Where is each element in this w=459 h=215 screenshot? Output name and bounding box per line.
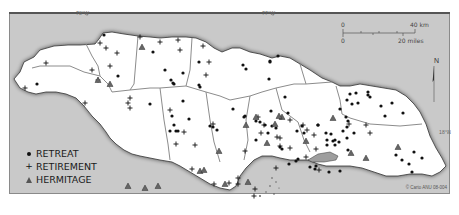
retreat-marker	[324, 131, 327, 134]
retirement-marker	[274, 166, 279, 171]
retreat-marker	[394, 153, 397, 156]
retreat-marker	[163, 68, 166, 71]
map-credit: © Carto ANU 08-004	[406, 185, 447, 190]
scale-km-start: 0	[341, 21, 345, 28]
scale-bar	[343, 29, 415, 37]
plus-icon: +	[25, 162, 33, 171]
retreat-marker	[338, 107, 341, 110]
scale-km-end: 40 km	[410, 21, 429, 28]
retreat-marker	[295, 129, 298, 132]
retreat-marker	[176, 129, 179, 132]
retreat-marker	[242, 115, 245, 118]
retreat-marker	[348, 92, 351, 95]
hermitage-marker	[125, 183, 131, 189]
retreat-marker	[35, 82, 38, 85]
retreat-marker	[241, 63, 244, 66]
legend-label-retirement: RETIREMENT	[36, 160, 97, 173]
retreat-marker	[383, 114, 386, 117]
retreat-marker	[325, 143, 328, 146]
retreat-marker	[168, 129, 171, 132]
retreat-marker	[412, 150, 415, 153]
retreat-marker	[390, 101, 393, 104]
hermitage-marker	[245, 179, 251, 185]
retreat-marker	[366, 90, 369, 93]
legend-item-retreat: RETREAT	[22, 147, 97, 160]
retreat-marker	[302, 131, 305, 134]
retirement-marker	[317, 168, 322, 173]
retirement-marker	[252, 194, 257, 199]
retreat-marker	[215, 128, 218, 131]
retreat-marker	[286, 111, 289, 114]
legend-label-retreat: RETREAT	[36, 147, 79, 160]
scale-miles-end: 20 miles	[398, 37, 424, 44]
retreat-marker	[346, 148, 349, 151]
retreat-marker	[400, 158, 403, 161]
retreat-marker	[333, 143, 336, 146]
retreat-marker	[269, 109, 272, 112]
retreat-marker	[325, 138, 328, 141]
retreat-marker	[296, 157, 299, 160]
retreat-marker	[350, 102, 353, 105]
retreat-marker	[337, 140, 340, 143]
retreat-marker	[345, 125, 348, 128]
cays	[259, 177, 280, 197]
retreat-marker	[148, 102, 151, 105]
retreat-marker	[379, 104, 382, 107]
retreat-marker	[329, 132, 332, 135]
retreat-marker	[244, 67, 247, 70]
retreat-marker	[181, 99, 184, 102]
retreat-marker	[231, 107, 234, 110]
scale-miles-start: 0	[341, 37, 345, 44]
dot-icon	[27, 152, 31, 156]
retreat-marker	[283, 95, 286, 98]
retreat-marker	[352, 131, 355, 134]
retreat-marker	[198, 85, 201, 88]
legend-item-retirement: + RETIREMENT	[22, 160, 97, 173]
retreat-marker	[172, 123, 175, 126]
retreat-marker	[410, 170, 413, 173]
retreat-marker	[401, 111, 404, 114]
retreat-marker	[356, 101, 359, 104]
retreat-marker	[258, 120, 261, 123]
retreat-marker	[266, 131, 269, 134]
latitude-label-18n: 18°N	[439, 129, 451, 135]
north-label: N	[434, 57, 439, 64]
retreat-marker	[181, 71, 184, 74]
retreat-marker	[197, 60, 200, 63]
retreat-marker	[287, 162, 290, 165]
retreat-marker	[102, 33, 105, 36]
retreat-marker	[268, 60, 271, 63]
retreat-marker	[254, 119, 257, 122]
longitude-label-78w: 78°W	[76, 10, 89, 16]
hermitage-marker	[155, 183, 161, 189]
retreat-marker	[420, 156, 423, 159]
retreat-marker	[208, 124, 211, 127]
retreat-marker	[254, 138, 257, 141]
legend-label-hermitage: HERMITAGE	[36, 173, 92, 186]
retreat-marker	[345, 136, 348, 139]
map-legend: RETREAT + RETIREMENT HERMITAGE	[22, 147, 97, 186]
retreat-marker	[368, 95, 371, 98]
retreat-marker	[170, 114, 173, 117]
retreat-marker	[341, 129, 344, 132]
hermitage-marker	[142, 185, 148, 191]
triangle-icon	[26, 177, 32, 183]
retreat-marker	[331, 139, 334, 142]
retreat-marker	[267, 77, 270, 80]
retreat-marker	[344, 115, 347, 118]
retreat-marker	[314, 164, 317, 167]
longitude-label-77w: 77°W	[262, 10, 275, 16]
retreat-marker	[313, 167, 316, 170]
north-arrow-icon	[433, 66, 435, 102]
retreat-marker	[308, 165, 311, 168]
retreat-marker	[276, 54, 279, 57]
retreat-marker	[345, 98, 348, 101]
retreat-marker	[187, 117, 190, 120]
retreat-marker	[338, 169, 341, 172]
retreat-marker	[354, 91, 357, 94]
retreat-marker	[327, 170, 330, 173]
retreat-marker	[274, 126, 277, 129]
retreat-marker	[151, 50, 154, 53]
retreat-marker	[316, 123, 319, 126]
retreat-marker	[171, 81, 174, 84]
